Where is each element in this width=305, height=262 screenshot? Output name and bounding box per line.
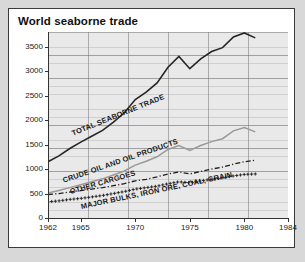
y-tick-label: 3000 bbox=[9, 66, 43, 75]
x-tick-mark bbox=[48, 219, 49, 222]
plot-area: TOTAL SEABORNE TRADE CRUDE OIL AND OIL P… bbox=[48, 32, 288, 218]
x-tick-label: 1975 bbox=[170, 223, 210, 232]
x-tick-label: 1980 bbox=[224, 223, 264, 232]
x-tick-mark bbox=[135, 219, 136, 222]
y-tick-mark bbox=[45, 96, 48, 97]
y-tick-mark bbox=[45, 71, 48, 72]
y-tick-label: 3500 bbox=[9, 42, 43, 51]
chart-title: World seaborne trade bbox=[18, 15, 138, 27]
y-tick-mark bbox=[45, 120, 48, 121]
y-tick-mark bbox=[45, 169, 48, 170]
y-tick-label: 1000 bbox=[9, 164, 43, 173]
x-tick-label: 1965 bbox=[61, 223, 101, 232]
x-tick-mark bbox=[190, 219, 191, 222]
y-tick-label: 500 bbox=[9, 189, 43, 198]
x-tick-mark bbox=[81, 219, 82, 222]
x-tick-label: 1984 bbox=[268, 223, 305, 232]
y-tick-label: 2500 bbox=[9, 91, 43, 100]
chart-figure: World seaborne trade TOTAL SEABORNE TRAD… bbox=[8, 8, 295, 248]
y-axis-line bbox=[48, 32, 49, 219]
x-axis-line bbox=[48, 218, 289, 219]
x-tick-label: 1970 bbox=[115, 223, 155, 232]
x-tick-mark bbox=[288, 219, 289, 222]
y-tick-mark bbox=[45, 194, 48, 195]
x-tick-mark bbox=[244, 219, 245, 222]
y-tick-mark bbox=[45, 145, 48, 146]
y-tick-label: 1500 bbox=[9, 140, 43, 149]
y-tick-label: 0 bbox=[9, 213, 43, 222]
y-tick-label: 2000 bbox=[9, 115, 43, 124]
y-tick-mark bbox=[45, 47, 48, 48]
